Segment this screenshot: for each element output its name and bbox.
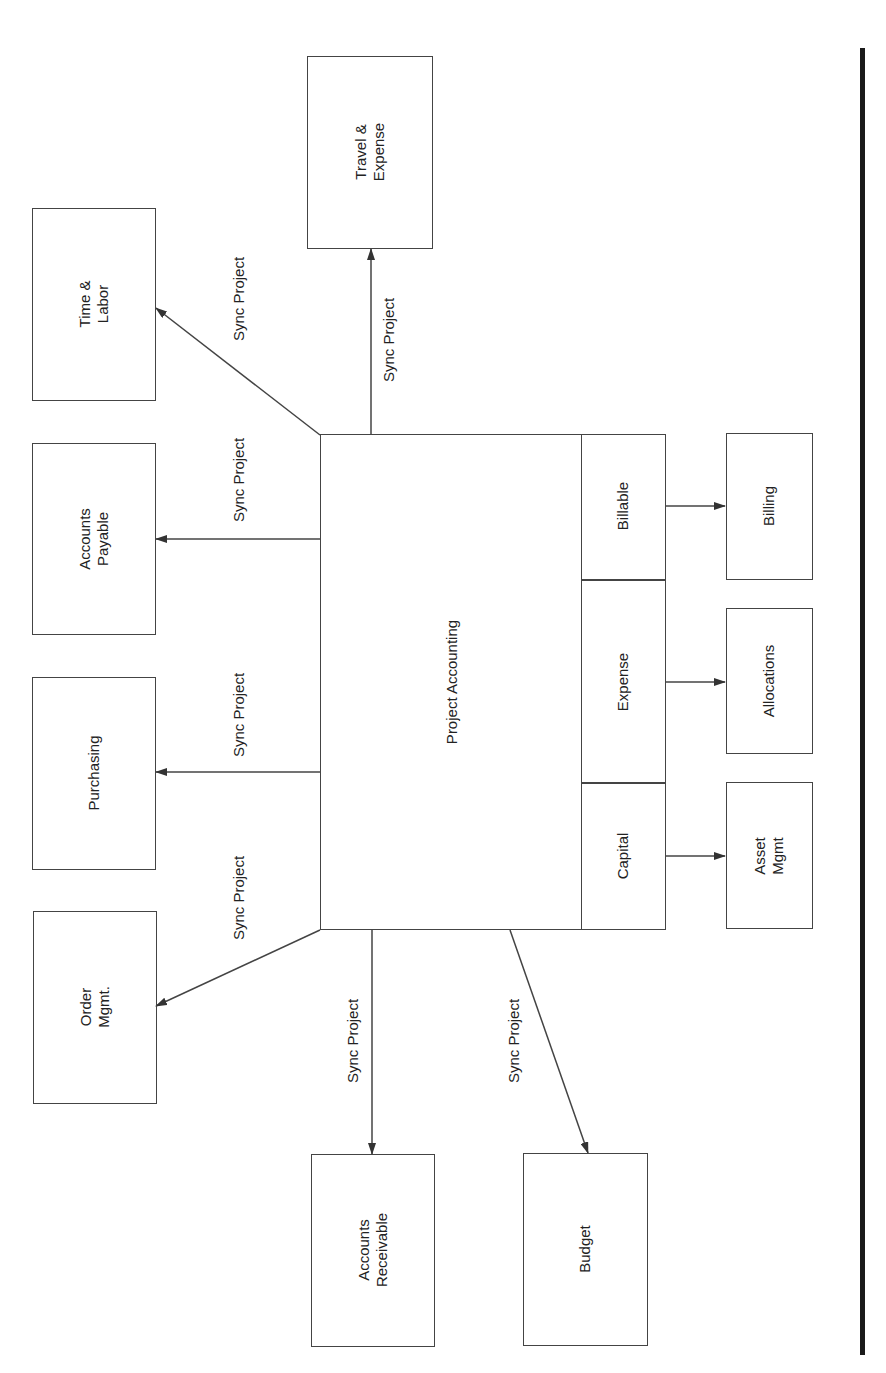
edge-label-accounts-payable: Sync Project <box>230 438 247 522</box>
edge-label-travel-expense: Sync Project <box>380 298 397 382</box>
allocations-label: Allocations <box>760 645 778 718</box>
time-labor-label: Time & Labor <box>76 281 112 328</box>
order-mgmt-label: Order Mgmt. <box>77 986 113 1028</box>
project-accounting-label: Project Accounting <box>443 620 461 744</box>
travel-expense-label: Travel & Expense <box>352 123 388 181</box>
edge-label-order-mgmt: Sync Project <box>230 856 247 940</box>
capital-label: Capital <box>614 833 632 880</box>
edge-label-accounts-receivable: Sync Project <box>344 999 361 1083</box>
budget-label: Budget <box>576 1225 594 1273</box>
billable-label: Billable <box>614 482 632 530</box>
billing-label: Billing <box>760 486 778 526</box>
edge-budget <box>510 930 588 1153</box>
accounts-payable-label: Accounts Payable <box>76 508 112 570</box>
edge-label-time-labor: Sync Project <box>230 257 247 341</box>
accounts-receivable-label: Accounts Receivable <box>355 1213 391 1287</box>
edge-label-purchasing: Sync Project <box>230 673 247 757</box>
expense-label: Expense <box>614 653 632 711</box>
purchasing-label: Purchasing <box>85 735 103 810</box>
asset-mgmt-label: Asset Mgmt <box>751 837 787 875</box>
edge-order-mgmt <box>156 930 320 1006</box>
page-margin-rule <box>860 48 865 1355</box>
edge-label-budget: Sync Project <box>505 999 522 1083</box>
